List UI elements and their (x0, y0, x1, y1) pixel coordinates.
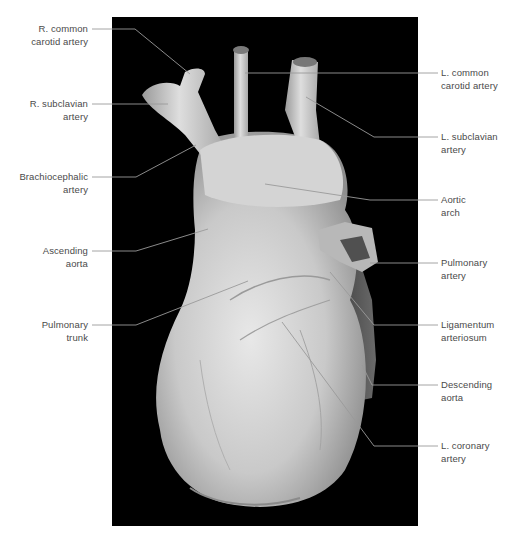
label-ligamentum-arteriosum: Ligamentum arteriosum (441, 318, 515, 344)
label-r-subclavian: R. subclavian artery (0, 97, 88, 123)
label-l-common-carotid: L. common carotid artery (441, 66, 515, 92)
left-common-carotid-shape (233, 46, 249, 148)
leader-l-subclavian (306, 97, 438, 137)
label-pulmonary-artery: Pulmonary artery (441, 256, 515, 282)
heart-specimen-illustration (0, 0, 515, 540)
label-r-common-carotid: R. common carotid artery (0, 22, 88, 48)
label-l-coronary: L. coronary artery (441, 439, 515, 465)
label-ascending-aorta: Ascending aorta (0, 244, 88, 270)
aortic-arch-shape (200, 135, 343, 207)
label-pulmonary-trunk: Pulmonary trunk (0, 318, 88, 344)
label-descending-aorta: Descending aorta (441, 378, 515, 404)
label-aortic-arch: Aortic arch (441, 193, 515, 219)
label-l-subclavian: L. subclavian artery (441, 130, 515, 156)
leader-r-common-carotid (92, 29, 190, 74)
label-brachiocephalic: Brachiocephalic artery (0, 170, 88, 196)
leader-brachiocephalic (92, 145, 196, 177)
leader-ascending-aorta (92, 229, 208, 251)
